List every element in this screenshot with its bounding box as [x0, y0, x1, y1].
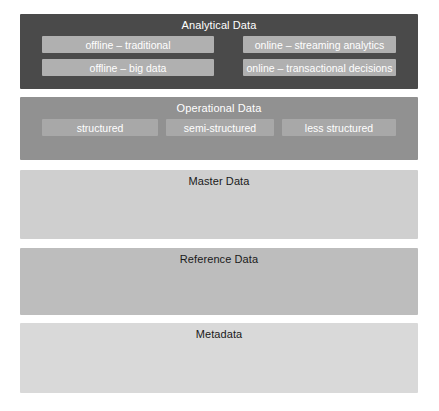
sub-box-online-transactional-decisions[interactable]: online – transactional decisions — [243, 59, 396, 76]
sub-box-label: less structured — [305, 122, 373, 134]
layer-title-analytical-data: Analytical Data — [20, 14, 418, 32]
layer-metadata[interactable]: Metadata — [20, 323, 418, 393]
layer-title-reference-data: Reference Data — [20, 248, 418, 266]
sub-box-label: online – transactional decisions — [247, 62, 393, 74]
sub-box-label: offline – traditional — [85, 39, 170, 51]
layer-operational-data[interactable]: Operational Data structured semi-structu… — [20, 97, 418, 160]
layer-title-metadata: Metadata — [20, 323, 418, 341]
sub-box-label: semi-structured — [184, 122, 256, 134]
operational-sub-box-group: structured semi-structured less structur… — [20, 119, 418, 143]
sub-box-structured[interactable]: structured — [42, 119, 158, 136]
sub-box-online-streaming-analytics[interactable]: online – streaming analytics — [243, 36, 396, 53]
layer-title-master-data: Master Data — [20, 170, 418, 188]
layer-title-operational-data: Operational Data — [20, 97, 418, 115]
sub-box-less-structured[interactable]: less structured — [282, 119, 396, 136]
layer-analytical-data[interactable]: Analytical Data offline – traditional on… — [20, 14, 418, 89]
sub-box-label: offline – big data — [90, 62, 167, 74]
layer-reference-data[interactable]: Reference Data — [20, 248, 418, 315]
sub-box-offline-big-data[interactable]: offline – big data — [42, 59, 214, 76]
analytical-sub-box-group: offline – traditional online – streaming… — [20, 36, 418, 84]
sub-box-offline-traditional[interactable]: offline – traditional — [42, 36, 214, 53]
data-layers-diagram: Analytical Data offline – traditional on… — [0, 0, 439, 411]
sub-box-label: structured — [77, 122, 124, 134]
sub-box-label: online – streaming analytics — [255, 39, 385, 51]
sub-box-semi-structured[interactable]: semi-structured — [166, 119, 274, 136]
layer-master-data[interactable]: Master Data — [20, 170, 418, 239]
